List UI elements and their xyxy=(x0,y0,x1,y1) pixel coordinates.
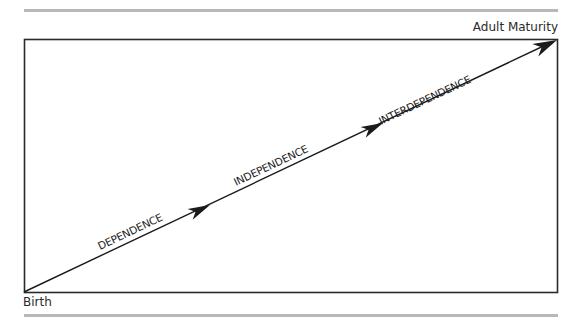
arrowhead-icon-dependence xyxy=(188,200,213,220)
stage-label-independence: INDEPENDENCE xyxy=(232,142,310,187)
bottom-rule xyxy=(24,314,558,317)
maturity-continuum-diagram: DEPENDENCE INDEPENDENCE INTERDEPENDENCE xyxy=(0,0,583,330)
stage-label-dependence: DEPENDENCE xyxy=(96,211,164,252)
growth-line xyxy=(24,42,552,292)
arrowhead-icon-interdependence xyxy=(532,34,560,57)
stage-label-interdependence: INTERDEPENDENCE xyxy=(377,73,473,127)
birth-label: Birth xyxy=(23,295,52,309)
